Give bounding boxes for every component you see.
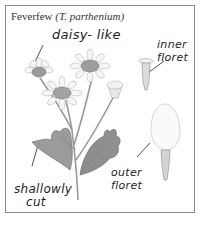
label-shallowly-cut: shallowly cut	[14, 183, 72, 209]
shallowly-cut-line2: cut	[14, 196, 72, 209]
outer-floret-pointer-line	[137, 143, 150, 157]
leaf-left	[32, 128, 72, 170]
label-outer-floret: outer floret	[111, 166, 142, 192]
label-daisy-like: daisy- like	[52, 28, 121, 41]
outer-floret-line2: floret	[111, 179, 142, 192]
inner-floret-line2: floret	[157, 51, 188, 64]
outer-floret-line1: outer	[111, 166, 142, 179]
flower-head-left	[25, 58, 53, 77]
inner-floret	[139, 59, 153, 91]
flower-head-top	[70, 49, 110, 82]
flower-bud-right	[107, 81, 123, 98]
label-inner-floret: inner floret	[157, 38, 188, 64]
flower-head-center	[42, 76, 82, 110]
leaf-pointer-line	[32, 145, 38, 166]
outer-floret	[151, 104, 180, 180]
inner-floret-line1: inner	[157, 38, 188, 51]
